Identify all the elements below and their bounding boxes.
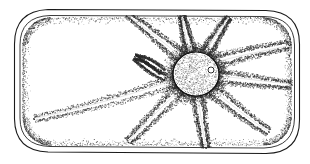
figure-background <box>0 0 310 164</box>
cell-drawing-canvas: Plant cell with central nucleus and cyto… <box>0 0 310 164</box>
nucleolus-fill <box>209 68 213 72</box>
cell-diagram-figure: Plant cell with central nucleus and cyto… <box>0 0 310 164</box>
